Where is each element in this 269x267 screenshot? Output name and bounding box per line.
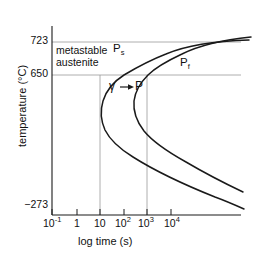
xtick-label-0: 10-1 [43,216,61,229]
xtick-exp-4: 3 [150,215,154,224]
ttt-diagram-figure: 723 650 −273 temperature (°C) 10-1 1 10 … [0,0,269,267]
pf-label-base: P [180,56,188,68]
ps-curve-label: Ps [113,42,124,57]
ps-label-base: P [113,42,121,54]
pearlite-symbol: P [135,79,143,93]
gamma-symbol: γ [109,79,115,93]
y-axis-title: temperature (°C) [17,51,29,161]
xtick-base-5: 10 [164,217,176,229]
xtick-exp-5: 4 [176,215,180,224]
pf-curve-label: Pf [180,56,190,71]
xtick-label-4: 103 [138,216,154,229]
ytick-label-minus273: −273 [8,199,48,210]
pf-label-subscript: f [188,62,190,71]
xtick-label-3: 102 [115,216,131,229]
metastable-austenite-label: metastable austenite [56,45,107,69]
xtick-label-5: 104 [164,216,180,229]
ps-label-subscript: s [121,48,125,57]
metastable-austenite-line2: austenite [56,57,107,69]
xtick-label-2: 10 [94,216,106,229]
ytick-label-723: 723 [18,35,48,46]
xtick-base-2: 10 [94,217,106,229]
xtick-base-4: 10 [138,217,150,229]
xtick-label-1: 1 [74,216,80,229]
x-axis-title: log time (s) [78,236,132,248]
gamma-to-pearlite-label: γP [109,80,143,93]
metastable-austenite-line1: metastable [56,45,107,57]
xtick-exp-0: -1 [55,215,62,224]
xtick-exp-3: 2 [127,215,131,224]
xtick-base-0: 10 [43,217,55,229]
xtick-base-1: 1 [74,217,80,229]
xtick-base-3: 10 [115,217,127,229]
